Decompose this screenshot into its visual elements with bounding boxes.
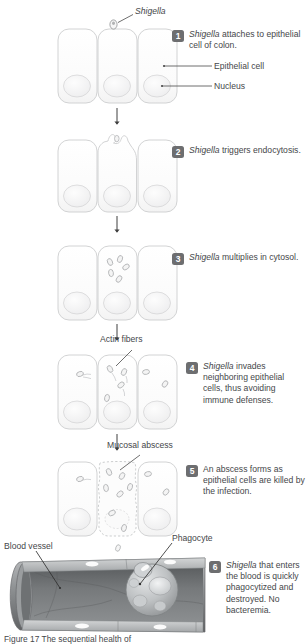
step-4-badge: 4 [186, 362, 198, 374]
nucleus [64, 401, 91, 423]
callout-epithelial-cell: Epithelial cell [214, 61, 264, 71]
step-4: 4 Shigella invades neighboring epithelia… [186, 361, 306, 406]
callout-mucosal-abscess: Mucosal abscess [107, 440, 173, 450]
step-2-italic: Shigella [189, 145, 220, 155]
panel-3-multiplication [58, 246, 177, 320]
leader-line [118, 15, 133, 23]
step-3-body: multiplies in cytosol. [220, 252, 299, 262]
step-2-body: triggers endocytosis. [220, 145, 301, 155]
epithelial-cell [138, 462, 177, 536]
step-6-badge: 6 [209, 561, 221, 573]
epithelial-cell [58, 246, 97, 320]
step-1-badge: 1 [172, 30, 184, 42]
panel-1-attachment [58, 15, 212, 104]
epithelial-cell-endocytosing [98, 135, 137, 212]
step-3-text: Shigella multiplies in cytosol. [189, 252, 298, 263]
nucleus [144, 508, 171, 530]
panel-2-endocytosis [58, 135, 177, 212]
mucosal-abscess-lesion [98, 462, 136, 537]
step-3-badge: 3 [172, 253, 184, 265]
epithelial-cell [58, 462, 97, 536]
nucleus [64, 75, 91, 97]
phagosome [129, 579, 139, 588]
vessel-wall-bottom [22, 620, 203, 632]
shigella-bacterium [110, 20, 117, 29]
nucleus [64, 292, 91, 314]
step-2-badge: 2 [172, 146, 184, 158]
nucleus [104, 292, 131, 314]
step-1: 1 Shigella attaches to epithelial cell o… [172, 29, 304, 51]
step-3-italic: Shigella [189, 252, 220, 262]
epithelial-cell-infected [98, 246, 137, 320]
step-5-body: An abscess forms as epithelial cells are… [203, 464, 305, 496]
shigella-bacterium [115, 135, 120, 141]
step-3: 3 Shigella multiplies in cytosol. [172, 252, 304, 265]
callout-phagocyte: Phagocyte [172, 533, 213, 543]
step-4-italic: Shigella [203, 361, 234, 371]
step-1-italic: Shigella [189, 29, 220, 39]
step-6: 6 Shigella that enters the blood is quic… [209, 560, 305, 616]
step-2-text: Shigella triggers endocytosis. [189, 145, 301, 156]
figure-caption: Figure 17 The sequential health of [4, 634, 304, 644]
step-2: 2 Shigella triggers endocytosis. [172, 145, 304, 158]
epithelial-cell [58, 140, 97, 212]
phagosome [154, 601, 166, 611]
nucleus [104, 75, 131, 97]
nucleus [144, 185, 171, 207]
epithelial-cell [138, 355, 177, 429]
nucleus [104, 185, 131, 207]
panel-4-cell-to-cell-spread [58, 350, 177, 429]
nucleus [144, 401, 171, 423]
step-1-text: Shigella attaches to epithelial cell of … [189, 29, 304, 51]
epithelial-cell-infected [98, 355, 137, 429]
shigella-bacterium [115, 544, 121, 552]
callout-blood-vessel: Blood vessel [4, 541, 53, 551]
epithelial-cell [58, 29, 97, 103]
step-5-badge: 5 [186, 465, 198, 477]
epithelial-cell [58, 355, 97, 429]
callout-actin-fibers: Actin fibers [100, 334, 143, 344]
step-5: 5 An abscess forms as epithelial cells a… [186, 464, 306, 498]
phagocyte-nucleus [149, 577, 171, 595]
step-5-text: An abscess forms as epithelial cells are… [203, 464, 306, 498]
nucleus [104, 401, 131, 423]
epithelial-cell [98, 29, 137, 103]
step-6-text: Shigella that enters the blood is quickl… [226, 560, 305, 616]
panel-6-blood-vessel [10, 543, 205, 632]
callout-nucleus: Nucleus [214, 81, 245, 91]
step-4-text: Shigella invades neighboring epithelial … [203, 361, 306, 406]
nucleus [64, 185, 91, 207]
nucleus [144, 292, 171, 314]
nucleus [64, 508, 91, 530]
panel-5-abscess [58, 455, 177, 536]
step-6-italic: Shigella [226, 560, 257, 570]
callout-shigella: Shigella [135, 6, 166, 16]
phagosome [133, 595, 147, 607]
